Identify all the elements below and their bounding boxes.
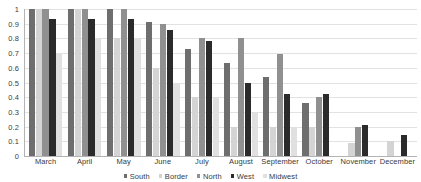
bar[interactable] (146, 22, 152, 156)
legend-item[interactable]: Midwest (263, 172, 297, 181)
bar-slot (36, 9, 42, 156)
bar-slot (316, 9, 322, 156)
bar[interactable] (355, 127, 361, 156)
x-axis-tick: May (104, 157, 143, 170)
x-axis-tick: September (261, 157, 300, 170)
bar-slot (348, 9, 354, 156)
bar-slot (160, 9, 166, 156)
bar-slot (95, 9, 101, 156)
bar-groups (24, 9, 417, 156)
bar[interactable] (245, 83, 251, 157)
bar-slot (146, 9, 152, 156)
bar-slot (394, 9, 400, 156)
bar[interactable] (213, 97, 219, 156)
bar-slot (387, 9, 393, 156)
bar[interactable] (95, 38, 101, 156)
bar[interactable] (192, 97, 198, 156)
bar[interactable] (42, 9, 48, 156)
y-axis-tick: 0 (15, 152, 19, 161)
bar[interactable] (238, 38, 244, 156)
bar[interactable] (309, 127, 315, 156)
bar[interactable] (387, 141, 393, 156)
bar-group (300, 9, 339, 156)
bar-slot (252, 9, 258, 156)
bar-slot (128, 9, 134, 156)
legend-item[interactable]: West (231, 172, 254, 181)
x-axis-labels: MarchAprilMayJuneJulyAugustSeptemberOcto… (24, 157, 417, 170)
y-axis-tick: 0.5 (8, 78, 19, 87)
bar-slot (107, 9, 113, 156)
y-axis-tick: 0.6 (8, 63, 19, 72)
bar[interactable] (291, 127, 297, 156)
legend-item[interactable]: Border (159, 172, 188, 181)
bar[interactable] (185, 49, 191, 156)
y-axis-tick: 0.2 (8, 122, 19, 131)
bar[interactable] (134, 38, 140, 156)
bar[interactable] (173, 83, 179, 157)
bar-slot (88, 9, 94, 156)
bar-slot (68, 9, 74, 156)
y-axis: 10.90.80.70.60.50.40.30.20.10 (0, 9, 22, 156)
bar[interactable] (323, 94, 329, 156)
y-axis-tick: 0.7 (8, 49, 19, 58)
bar[interactable] (206, 41, 212, 156)
bar-chart: 10.90.80.70.60.50.40.30.20.10 MarchApril… (0, 0, 421, 182)
bar[interactable] (29, 9, 35, 156)
bar[interactable] (199, 38, 205, 156)
legend-swatch-icon (197, 174, 201, 178)
bar-slot (238, 9, 244, 156)
bar-slot (330, 9, 336, 156)
bar-slot (185, 9, 191, 156)
bar-slot (277, 9, 283, 156)
bar-slot (42, 9, 48, 156)
bar-group (378, 9, 417, 156)
bar-slot (75, 9, 81, 156)
bar[interactable] (362, 125, 368, 156)
bar[interactable] (88, 19, 94, 156)
bar[interactable] (49, 19, 55, 156)
x-axis-tick: March (26, 157, 65, 170)
bar[interactable] (348, 143, 354, 156)
legend-item[interactable]: North (197, 172, 222, 181)
bar[interactable] (121, 9, 127, 156)
bar[interactable] (401, 135, 407, 156)
bar[interactable] (114, 38, 120, 156)
legend-swatch-icon (159, 174, 163, 178)
bar-slot (381, 9, 387, 156)
bar[interactable] (56, 53, 62, 156)
bar[interactable] (167, 30, 173, 156)
bar[interactable] (36, 9, 42, 156)
bar[interactable] (153, 68, 159, 156)
bar[interactable] (231, 127, 237, 156)
bar[interactable] (270, 127, 276, 156)
x-axis-tick: December (378, 157, 417, 170)
bar-group (182, 9, 221, 156)
bar[interactable] (82, 9, 88, 156)
bar[interactable] (263, 77, 269, 156)
bar[interactable] (107, 9, 113, 156)
legend-label: North (203, 172, 222, 181)
bar-slot (206, 9, 212, 156)
bar[interactable] (68, 9, 74, 156)
bar-group (104, 9, 143, 156)
bar[interactable] (224, 63, 230, 156)
legend-item[interactable]: South (124, 172, 150, 181)
bar[interactable] (277, 54, 283, 156)
bar[interactable] (75, 9, 81, 156)
y-axis-tick: 1 (15, 5, 19, 14)
x-axis-tick: July (182, 157, 221, 170)
bar[interactable] (160, 24, 166, 156)
x-axis-tick: April (65, 157, 104, 170)
bar[interactable] (284, 94, 290, 156)
bar-slot (408, 9, 414, 156)
bar[interactable] (128, 19, 134, 156)
bar[interactable] (252, 112, 258, 156)
bar-slot (29, 9, 35, 156)
legend-label: Midwest (269, 172, 297, 181)
bar[interactable] (316, 97, 322, 156)
bar[interactable] (302, 103, 308, 156)
bar-slot (263, 9, 269, 156)
bar-group (65, 9, 104, 156)
bar-group (221, 9, 260, 156)
y-axis-tick: 0.3 (8, 107, 19, 116)
